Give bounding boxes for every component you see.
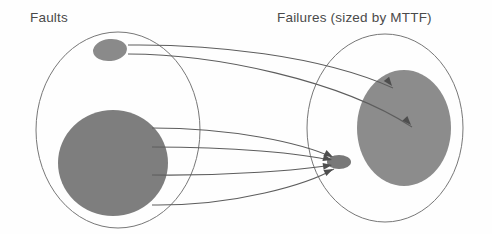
blob-fault-small (92, 37, 128, 62)
mapping-curve-m4 (152, 147, 333, 161)
mapping-curve-m6 (152, 169, 334, 205)
mapping-curve-m5 (152, 165, 333, 175)
blobs (58, 37, 451, 216)
diagram-canvas: Faults Failures (sized by MTTF) (0, 0, 492, 234)
label-faults: Faults (30, 10, 68, 25)
faults-failures-diagram: Faults Failures (sized by MTTF) (0, 0, 492, 234)
blob-failure-large (357, 70, 451, 186)
mapping-curve-m1 (128, 45, 393, 88)
blob-failure-small (327, 155, 351, 169)
label-failures: Failures (sized by MTTF) (277, 10, 432, 25)
blob-fault-large (58, 110, 168, 216)
